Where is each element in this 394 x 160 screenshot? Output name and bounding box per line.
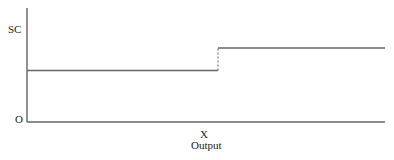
y-axis-label: SC	[8, 23, 21, 35]
origin-label: O	[15, 113, 23, 125]
chart-canvas	[0, 0, 394, 160]
x-axis-title: Output	[191, 139, 222, 151]
